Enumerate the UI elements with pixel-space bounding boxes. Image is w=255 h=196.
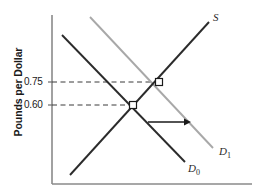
supply-curve-s [70,22,209,175]
chart-canvas [0,0,255,196]
demand-d1-label: D1 [219,145,231,160]
y-axis-label: Pounds per Dollar [12,27,24,157]
supply-curve-label: S [213,11,219,23]
demand-d1-label-base: D [219,145,227,157]
demand-d1-label-sub: 1 [227,151,231,160]
equilibrium-marker-new [156,79,163,86]
shift-arrow-icon [148,119,191,126]
demand-d0-label: D0 [188,162,200,177]
supply-demand-chart: Pounds per Dollar 0.75 0.60 S D0 D1 [0,0,255,196]
y-tick-label-060: 0.60 [24,99,43,110]
y-tick-label-075: 0.75 [24,76,43,87]
demand-d0-label-base: D [188,162,196,174]
equilibrium-marker-initial [130,102,137,109]
demand-d0-label-sub: 0 [196,168,200,177]
